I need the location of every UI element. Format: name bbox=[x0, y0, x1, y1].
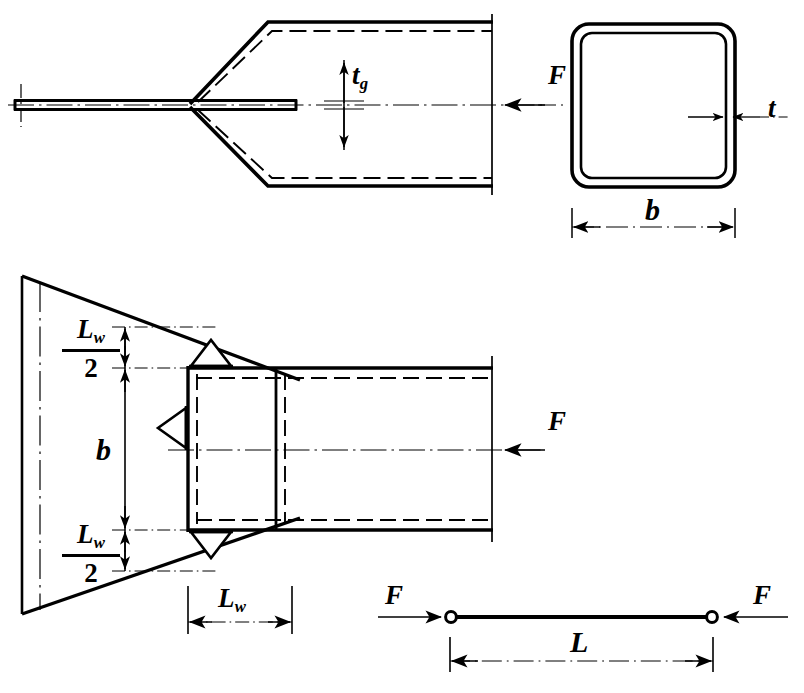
force-label-side-elevation: F bbox=[548, 62, 566, 89]
weld-symbol-left bbox=[158, 406, 186, 450]
force-label-strut-right: F bbox=[753, 582, 771, 609]
gusset-thickness-label: tg bbox=[352, 62, 368, 93]
weld-length-label: Lw bbox=[218, 585, 246, 616]
force-label-strut-left: F bbox=[385, 582, 403, 609]
weld-half-length-label-bottom: Lw 2 bbox=[62, 521, 120, 587]
pin-joint-right bbox=[707, 612, 718, 623]
tube-outer-wall bbox=[572, 24, 735, 187]
side-elevation-view bbox=[8, 14, 545, 195]
wall-thickness-label: t bbox=[768, 95, 776, 122]
cross-section-view bbox=[538, 24, 790, 238]
pin-joint-left bbox=[446, 612, 457, 623]
strut-length-label: L bbox=[570, 627, 588, 657]
force-label-plan-view: F bbox=[548, 408, 566, 435]
plan-width-label: b bbox=[96, 435, 111, 465]
engineering-drawing-sheet: tg F t b Lw 2 b Lw 2 Lw F F F L bbox=[0, 0, 804, 693]
tube-inner-wall bbox=[581, 33, 726, 178]
section-width-label: b bbox=[645, 195, 660, 225]
tube-outer-profile-side bbox=[190, 22, 493, 186]
tube-outline-plan bbox=[187, 366, 493, 532]
tube-hidden-lines-plan bbox=[196, 374, 492, 524]
weld-half-length-label-top: Lw 2 bbox=[62, 316, 120, 382]
